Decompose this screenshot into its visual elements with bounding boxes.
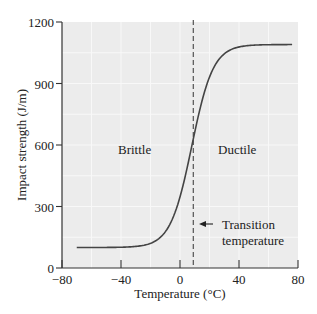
brittle-label: Brittle — [118, 142, 151, 157]
x-tick-label: 40 — [233, 272, 246, 287]
y-tick-label: 1200 — [28, 15, 54, 30]
y-axis-title: Impact strength (J/m) — [14, 89, 29, 201]
transition-label-line1: Transition — [222, 217, 275, 232]
x-axis-title: Temperature (°C) — [134, 286, 225, 301]
x-tick-labels: −80−4004080 — [52, 272, 305, 287]
impact-strength-chart: 03006009001200 −80−4004080 Brittle Ducti… — [0, 0, 317, 314]
y-tick-labels: 03006009001200 — [28, 15, 54, 276]
x-tick-label: −40 — [111, 272, 131, 287]
ductile-label: Ductile — [218, 142, 256, 157]
y-tick-label: 900 — [35, 77, 55, 92]
x-tick-label: 0 — [177, 272, 184, 287]
x-tick-label: 80 — [292, 272, 305, 287]
transition-label-line2: temperature — [222, 233, 284, 248]
y-tick-label: 600 — [35, 138, 55, 153]
x-tick-label: −80 — [52, 272, 72, 287]
y-tick-label: 300 — [35, 200, 55, 215]
